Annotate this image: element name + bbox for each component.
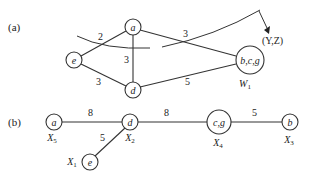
node-b-d-name: X2 [124, 132, 135, 145]
weight-e-a: 2 [98, 31, 103, 42]
weight-a-w: 3 [183, 28, 188, 39]
node-b-e-label: e [88, 157, 93, 168]
node-a-label: a [131, 22, 136, 33]
weight-b-a-d: 8 [88, 107, 93, 118]
node-b-cg-label: c,g [213, 117, 225, 128]
edge-e-a [81, 31, 126, 56]
node-b-a-name: X5 [46, 132, 57, 145]
node-e-label: e [72, 55, 77, 66]
node-b-cg-name: X4 [212, 137, 223, 150]
node-w1-label: b,c,g [240, 55, 259, 66]
cut-curve-right [162, 10, 260, 47]
node-b-b-name: X3 [283, 134, 294, 147]
weight-b-d-e: 5 [100, 132, 105, 143]
node-b-a-label: a [52, 117, 57, 128]
cut-label: (Y,Z) [262, 35, 283, 47]
node-b-b-label: b [288, 117, 293, 128]
panel-a-label: (a) [8, 21, 21, 34]
panel-b-label: (b) [8, 116, 21, 129]
weight-b-cg-b: 5 [252, 107, 257, 118]
weight-a-d: 3 [124, 54, 129, 65]
node-w1-name: W1 [239, 78, 251, 91]
graph-diagram: (a) (Y,Z) 2 3 3 3 5 a e d b,c,g W1 (b) 8… [0, 0, 309, 179]
weight-d-w: 5 [185, 76, 190, 87]
weight-e-d: 3 [96, 76, 101, 87]
weight-b-d-cg: 8 [164, 107, 169, 118]
diagram-svg: (a) (Y,Z) 2 3 3 3 5 a e d b,c,g W1 (b) 8… [0, 0, 309, 179]
node-b-e-name: X1 [66, 156, 77, 169]
edge-a-w [140, 30, 236, 56]
cut-arrow-shaft [259, 11, 267, 28]
edge-e-d [81, 64, 126, 86]
